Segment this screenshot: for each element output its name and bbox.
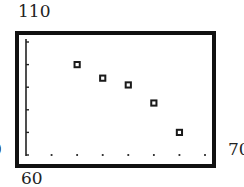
data-point-marker bbox=[100, 76, 105, 81]
x-tick-dot bbox=[153, 154, 155, 156]
data-point-marker bbox=[126, 82, 131, 87]
x-tick-dot bbox=[51, 154, 53, 156]
x-tick-dot bbox=[179, 154, 181, 156]
x-tick-dot bbox=[127, 154, 129, 156]
data-point-marker bbox=[177, 130, 182, 135]
data-point-marker bbox=[151, 100, 156, 105]
x-tick-dot bbox=[102, 154, 104, 156]
x-tick-dot bbox=[76, 154, 78, 156]
scatter-plot bbox=[0, 0, 244, 187]
data-points bbox=[75, 62, 182, 135]
x-tick-dot bbox=[204, 154, 206, 156]
data-point-marker bbox=[75, 62, 80, 67]
plot-axes bbox=[26, 39, 206, 156]
